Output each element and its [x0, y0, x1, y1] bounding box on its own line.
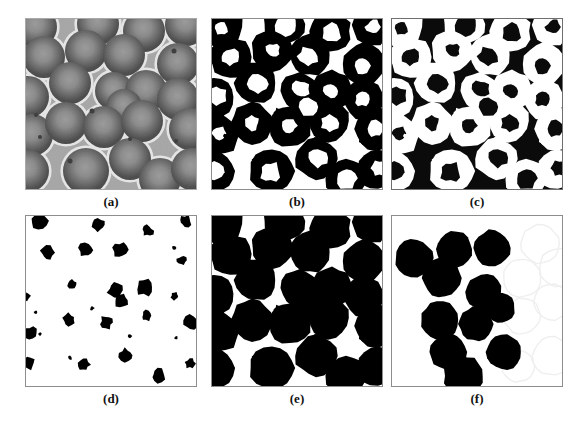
panel-e-image: [211, 215, 383, 387]
panel-f-label: (f): [391, 391, 563, 407]
panel-d-image: [25, 215, 197, 387]
panel-f-border-cleared: (f): [391, 215, 563, 387]
panel-b-label: (b): [211, 194, 383, 210]
panel-f-image: [391, 215, 563, 387]
panel-b-binary-rings: (b): [211, 18, 383, 190]
panel-a-original-grayscale: (a): [25, 18, 197, 190]
panel-c-image: [391, 18, 563, 190]
panel-a-label: (a): [25, 194, 197, 210]
figure-panel-grid: (a) (b): [0, 0, 587, 423]
panel-a-image: [25, 18, 197, 190]
panel-e-filled-discs: (e): [211, 215, 383, 387]
panel-c-inverted-rings: (c): [391, 18, 563, 190]
panel-d-eroded-markers: (d): [25, 215, 197, 387]
panel-c-label: (c): [391, 194, 563, 210]
panel-d-label: (d): [25, 391, 197, 407]
panel-e-label: (e): [211, 391, 383, 407]
panel-b-image: [211, 18, 383, 190]
